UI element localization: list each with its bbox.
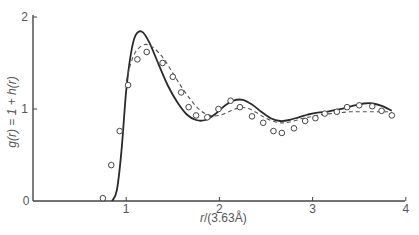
data-point-circle xyxy=(279,130,285,136)
y-tick-label: 1 xyxy=(21,102,28,116)
data-point-circle xyxy=(108,162,114,168)
x-axis-title: r/(3.63Å) xyxy=(200,210,247,225)
data-point-circle xyxy=(170,74,176,80)
x-tick-label: 4 xyxy=(402,202,409,216)
x-tick-label: 3 xyxy=(309,202,316,216)
data-point-circle xyxy=(334,109,340,115)
data-point-circle xyxy=(186,104,192,110)
y-tick-label: 2 xyxy=(21,10,28,24)
data-point-circle xyxy=(117,128,123,134)
data-point-circle xyxy=(237,104,243,110)
data-point-circle xyxy=(204,114,210,120)
data-point-circle xyxy=(344,104,350,110)
data-point-circle xyxy=(193,113,199,119)
x-tick-label: 1 xyxy=(123,202,130,216)
data-point-circle xyxy=(100,195,106,201)
data-point-circle xyxy=(379,108,385,114)
data-point-circle xyxy=(135,57,141,63)
y-axis-title: g(r) = 1 + h(r) xyxy=(5,76,19,147)
data-point-circle xyxy=(144,49,150,55)
x-tick-label: 0 xyxy=(23,194,30,208)
data-point-circle xyxy=(228,98,234,104)
series-layer xyxy=(33,31,395,201)
data-point-circle xyxy=(125,82,131,88)
data-point-circle xyxy=(313,115,319,121)
data-point-circle xyxy=(302,118,308,124)
data-point-circle xyxy=(216,106,222,112)
data-point-circle xyxy=(249,114,255,120)
data-point-circle xyxy=(369,103,375,109)
y-ticks: 12 xyxy=(21,10,37,116)
data-point-circle xyxy=(178,90,184,96)
data-point-circle xyxy=(356,103,362,109)
rdf-chart: 01234 12 r/(3.63Å) g(r) = 1 + h(r) xyxy=(0,0,419,235)
data-point-circle xyxy=(291,126,297,132)
data-point-circle xyxy=(260,120,266,126)
data-point-circle xyxy=(271,128,277,134)
data-point-circle xyxy=(160,60,166,66)
data-point-circle xyxy=(322,111,328,117)
data-point-circle xyxy=(389,113,395,119)
